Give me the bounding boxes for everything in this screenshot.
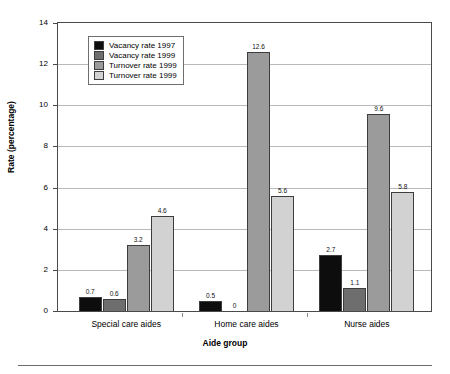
bar-wrapper: 12.6: [247, 23, 270, 311]
bar[interactable]: [103, 299, 126, 311]
y-tick-label: 0: [44, 307, 48, 315]
bar[interactable]: [271, 196, 294, 311]
y-tick-mark: [53, 64, 57, 65]
bar-value-label: 9.6: [374, 105, 383, 112]
bar-wrapper: 2.7: [319, 23, 342, 311]
bottom-divider: [18, 365, 432, 366]
x-axis-title: Aide group: [0, 338, 450, 348]
bar-value-label: 2.7: [326, 246, 335, 253]
bar[interactable]: [79, 297, 102, 311]
y-tick-label: 4: [44, 225, 48, 233]
x-group-label: Special care aides: [91, 319, 160, 329]
bar-value-label: 5.8: [398, 183, 407, 190]
bar[interactable]: [127, 245, 150, 311]
y-tick-mark: [53, 146, 57, 147]
y-tick-mark: [53, 188, 57, 189]
x-tick-mark: [307, 313, 308, 317]
legend-swatch-icon: [94, 61, 104, 70]
bar[interactable]: [151, 216, 174, 311]
bar-wrapper: 1.1: [343, 23, 366, 311]
y-tick-mark: [53, 311, 57, 312]
bar-wrapper: 0: [223, 23, 246, 311]
legend-label: Turnover rate 1999: [109, 61, 177, 70]
bar[interactable]: [247, 52, 270, 311]
y-tick-mark: [53, 229, 57, 230]
y-tick-label: 10: [39, 101, 48, 109]
legend-label: Turnover rate 1999: [109, 71, 177, 80]
y-tick-label: 6: [44, 184, 48, 192]
y-tick-label: 2: [44, 266, 48, 274]
bar-group: 0.5012.65.6: [199, 23, 294, 311]
bar[interactable]: [367, 114, 390, 311]
bar-wrapper: 5.8: [391, 23, 414, 311]
bar-value-label: 4.6: [158, 207, 167, 214]
bar-value-label: 1.1: [350, 279, 359, 286]
bar-wrapper: 0.5: [199, 23, 222, 311]
bar-value-label: 3.2: [134, 236, 143, 243]
legend-item[interactable]: Vacancy rate 1999: [94, 51, 177, 60]
legend-label: Vacancy rate 1997: [109, 41, 175, 50]
bar[interactable]: [199, 301, 222, 311]
legend-swatch-icon: [94, 51, 104, 60]
chart-figure: Rate (percentage) 02468101214 0.70.63.24…: [0, 0, 450, 374]
bar-value-label: 0.5: [206, 292, 215, 299]
bar[interactable]: [391, 192, 414, 311]
legend-swatch-icon: [94, 71, 104, 80]
y-axis: Rate (percentage) 02468101214: [0, 22, 57, 313]
bar-wrapper: 5.6: [271, 23, 294, 311]
bar-group: 2.71.19.65.8: [319, 23, 414, 311]
bar-value-label: 0.7: [86, 288, 95, 295]
y-tick-mark: [53, 270, 57, 271]
bar-value-label: 0.6: [110, 290, 119, 297]
y-tick-label: 8: [44, 142, 48, 150]
bar-value-label: 0: [233, 302, 237, 309]
y-tick-mark: [53, 105, 57, 106]
bar[interactable]: [343, 288, 366, 311]
legend-item[interactable]: Turnover rate 1999: [94, 71, 177, 80]
bar-value-label: 5.6: [278, 187, 287, 194]
bar-value-label: 12.6: [252, 43, 265, 50]
x-tick-mark: [182, 313, 183, 317]
legend-swatch-icon: [94, 41, 104, 50]
y-tick-mark: [53, 23, 57, 24]
bar-wrapper: 9.6: [367, 23, 390, 311]
y-tick-label: 14: [39, 19, 48, 27]
x-group-label: Nurse aides: [344, 319, 389, 329]
x-group-label: Home care aides: [214, 319, 278, 329]
legend-item[interactable]: Turnover rate 1999: [94, 61, 177, 70]
bar[interactable]: [319, 255, 342, 311]
chart-legend: Vacancy rate 1997Vacancy rate 1999Turnov…: [88, 36, 184, 85]
y-tick-label: 12: [39, 60, 48, 68]
y-axis-title: Rate (percentage): [6, 72, 16, 202]
legend-item[interactable]: Vacancy rate 1997: [94, 41, 177, 50]
legend-label: Vacancy rate 1999: [109, 51, 175, 60]
